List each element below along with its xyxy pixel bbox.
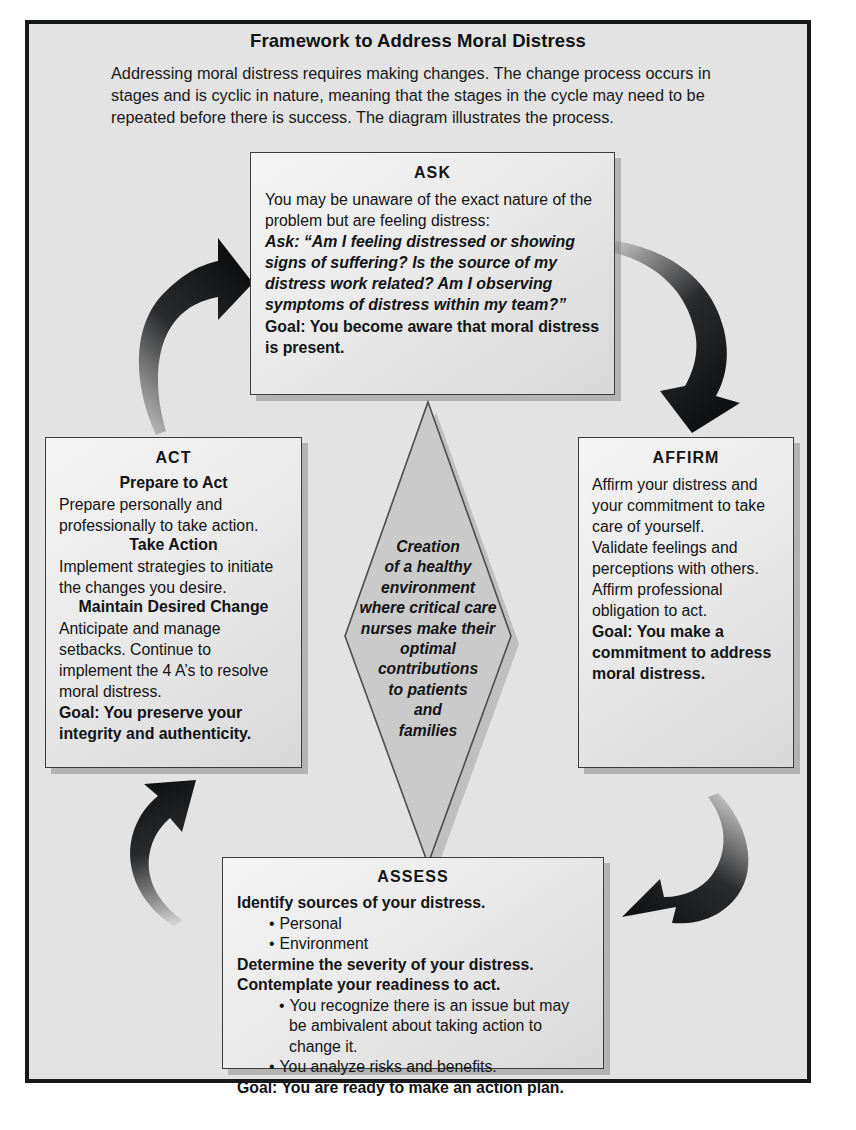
node-assess-line3: Contemplate your readiness to act. <box>237 975 589 996</box>
node-assess-bullet-list-2: •You recognize there is an issue but may… <box>237 996 589 1078</box>
node-assess-bullet1: Personal <box>280 915 342 932</box>
list-item: •Environment <box>237 934 589 955</box>
header: Framework to Address Moral Distress Addr… <box>33 30 803 128</box>
diagram-page: Framework to Address Moral Distress Addr… <box>0 0 856 1130</box>
bullet-glyph: • <box>279 997 285 1014</box>
node-affirm-para1: Affirm your distress and your commitment… <box>592 474 780 537</box>
node-affirm-title: AFFIRM <box>592 449 780 467</box>
center-diamond: Creation of a healthy environment where … <box>333 396 523 876</box>
node-act-para1: Prepare personally and professionally to… <box>59 494 288 536</box>
node-act-para2: Implement strategies to initiate the cha… <box>59 556 288 598</box>
intro-paragraph: Addressing moral distress requires makin… <box>33 62 803 128</box>
diamond-shape <box>333 396 523 876</box>
node-assess-bullet4: You analyze risks and benefits. <box>280 1058 497 1075</box>
page-title: Framework to Address Moral Distress <box>33 30 803 52</box>
node-assess-line1: Identify sources of your distress. <box>237 893 589 914</box>
node-affirm-para3: Affirm professional obligation to act. <box>592 579 780 621</box>
node-act-goal: Goal: You preserve your integrity and au… <box>59 702 288 744</box>
bullet-glyph: • <box>269 1058 275 1075</box>
arrow-affirm-to-assess <box>598 775 776 929</box>
node-affirm-para2: Validate feelings and perceptions with o… <box>592 537 780 579</box>
node-act-title: ACT <box>59 449 288 467</box>
node-assess-bullet3: You recognize there is an issue but may … <box>289 997 569 1055</box>
list-item: •Personal <box>237 914 589 935</box>
node-affirm-goal: Goal: You make a commitment to address m… <box>592 621 780 684</box>
node-assess: ASSESS Identify sources of your distress… <box>222 857 604 1069</box>
bullet-glyph: • <box>269 935 275 952</box>
node-act-sub3: Maintain Desired Change <box>59 598 288 616</box>
node-assess-bullet-list-1: •Personal •Environment <box>237 914 589 955</box>
node-ask-title: ASK <box>265 164 600 182</box>
list-item: •You analyze risks and benefits. <box>237 1057 589 1078</box>
node-assess-title: ASSESS <box>237 868 589 886</box>
node-act: ACT Prepare to Act Prepare personally an… <box>45 437 302 768</box>
node-ask: ASK You may be unaware of the exact natu… <box>250 152 615 395</box>
node-assess-goal: Goal: You are ready to make an action pl… <box>237 1078 589 1099</box>
node-affirm: AFFIRM Affirm your distress and your com… <box>578 437 794 768</box>
node-ask-goal: Goal: You become aware that moral distre… <box>265 316 600 358</box>
node-act-sub2: Take Action <box>59 536 288 554</box>
node-assess-line2: Determine the severity of your distress. <box>237 955 589 976</box>
node-ask-para1: You may be unaware of the exact nature o… <box>265 189 600 231</box>
node-ask-quote: Ask: “Am I feeling distressed or showing… <box>265 231 600 316</box>
list-item: •You recognize there is an issue but may… <box>237 996 589 1058</box>
arrow-ask-to-affirm <box>600 228 770 447</box>
node-act-para3: Anticipate and manage setbacks. Continue… <box>59 618 288 702</box>
node-act-sub1: Prepare to Act <box>59 474 288 492</box>
bullet-glyph: • <box>269 915 275 932</box>
node-assess-bullet2: Environment <box>280 935 369 952</box>
